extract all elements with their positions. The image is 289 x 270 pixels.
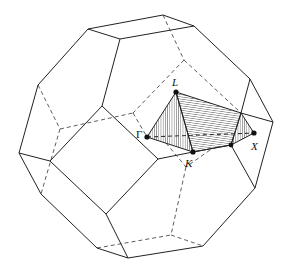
point-gamma — [144, 134, 149, 139]
point-K — [190, 149, 195, 154]
label-K: K — [184, 157, 193, 169]
irreducible-wedge — [147, 92, 254, 152]
point-L — [173, 89, 178, 94]
label-gamma: Γ — [136, 128, 142, 140]
point-X — [251, 130, 256, 135]
point-W — [229, 143, 234, 148]
brillouin-zone-diagram: L Γ K X — [0, 0, 289, 270]
label-X: X — [250, 140, 259, 152]
label-L: L — [171, 76, 178, 88]
